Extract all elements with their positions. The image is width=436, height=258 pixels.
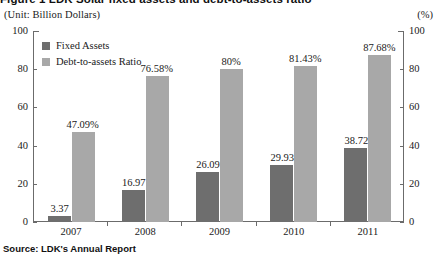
y-axis-left-label-0: 0 (2, 217, 28, 227)
source-text: Source: LDK's Annual Report (3, 243, 136, 254)
bar-debt-to-assets-ratio-2007[interactable] (72, 132, 95, 222)
figure-title-text: Figure 1 LDK Solar fixed assets and debt… (0, 0, 312, 5)
bar-fixed-assets-2009[interactable] (196, 172, 219, 222)
y-axis-left (33, 31, 34, 222)
legend-item-fixed-assets: Fixed Assets (42, 39, 141, 52)
y-axis-right-label-80: 80 (409, 64, 420, 74)
y-axis-left-label-100: 100 (2, 26, 28, 36)
x-axis-tick-3 (256, 222, 257, 226)
bar-group-2010: 29.9381.43% (270, 31, 317, 222)
bar-debt-to-assets-ratio-2011[interactable] (368, 55, 391, 222)
bar-debt-to-assets-ratio-2010[interactable] (294, 66, 317, 222)
y-axis-right-label-20: 20 (409, 179, 420, 189)
y-tick-right-20 (400, 184, 404, 185)
y-tick-right-40 (400, 146, 404, 147)
x-axis-label-2010: 2010 (283, 226, 304, 237)
legend-swatch-debt-to-assets-ratio (42, 58, 50, 66)
x-axis-tick-2 (181, 222, 182, 226)
legend: Fixed Assets Debt-to-assets Ratio (42, 39, 141, 71)
figure-title-clipped: Figure 1 LDK Solar fixed assets and debt… (0, 0, 436, 7)
y-axis-left-label-40: 40 (2, 141, 28, 151)
bar-value-label-debt-to-assets-ratio-2011: 87.68% (363, 42, 395, 53)
legend-swatch-fixed-assets (42, 42, 50, 50)
y-tick-left-80 (33, 69, 37, 70)
y-tick-left-20 (33, 184, 37, 185)
y-axis-right-label-0: 0 (409, 217, 414, 227)
bar-value-label-debt-to-assets-ratio-2008: 76.58% (141, 63, 173, 74)
legend-item-debt-to-assets-ratio: Debt-to-assets Ratio (42, 55, 141, 68)
bar-fixed-assets-2010[interactable] (270, 165, 293, 222)
x-axis-label-2011: 2011 (358, 226, 379, 237)
y-axis-right (403, 31, 404, 222)
y-tick-right-80 (400, 69, 404, 70)
legend-label-debt-to-assets-ratio: Debt-to-assets Ratio (56, 56, 141, 67)
bar-debt-to-assets-ratio-2009[interactable] (220, 69, 243, 222)
legend-label-fixed-assets: Fixed Assets (56, 40, 109, 51)
bar-value-label-fixed-assets-2008: 16.97 (122, 177, 146, 188)
bar-group-2009: 26.0980% (196, 31, 243, 222)
y-axis-left-label-80: 80 (2, 64, 28, 74)
y-tick-right-60 (400, 107, 404, 108)
x-axis-tick-4 (330, 222, 331, 226)
x-axis-tick-1 (107, 222, 108, 226)
y-tick-left-0 (33, 222, 37, 223)
unit-label-left: (Unit: Billion Dollars) (4, 9, 100, 20)
y-tick-left-40 (33, 146, 37, 147)
y-tick-right-100 (400, 31, 404, 32)
bar-value-label-debt-to-assets-ratio-2009: 80% (221, 56, 240, 67)
y-tick-right-0 (400, 222, 404, 223)
y-axis-right-label-60: 60 (409, 102, 420, 112)
bar-value-label-debt-to-assets-ratio-2007: 47.09% (66, 119, 98, 130)
y-tick-left-60 (33, 107, 37, 108)
bar-value-label-fixed-assets-2009: 26.09 (196, 159, 220, 170)
bar-fixed-assets-2007[interactable] (48, 216, 71, 222)
unit-label-right: (%) (417, 9, 433, 20)
bar-fixed-assets-2011[interactable] (344, 148, 367, 222)
bar-value-label-fixed-assets-2010: 29.93 (270, 152, 294, 163)
figure-container: Figure 1 LDK Solar fixed assets and debt… (0, 0, 436, 258)
y-axis-left-label-60: 60 (2, 102, 28, 112)
bar-value-label-fixed-assets-2007: 3.37 (50, 203, 68, 214)
x-axis-label-2008: 2008 (135, 226, 156, 237)
y-axis-left-label-20: 20 (2, 179, 28, 189)
bar-value-label-debt-to-assets-ratio-2010: 81.43% (289, 53, 321, 64)
x-axis-label-2007: 2007 (61, 226, 82, 237)
x-axis-label-2009: 2009 (209, 226, 230, 237)
bar-value-label-fixed-assets-2011: 38.72 (345, 135, 369, 146)
y-tick-left-100 (33, 31, 37, 32)
bar-fixed-assets-2008[interactable] (122, 190, 145, 222)
source-note: Source: LDK's Annual Report (3, 243, 136, 254)
bar-group-2011: 38.7287.68% (344, 31, 391, 222)
y-axis-right-label-100: 100 (409, 26, 425, 36)
bar-debt-to-assets-ratio-2008[interactable] (146, 76, 169, 222)
y-axis-right-label-40: 40 (409, 141, 420, 151)
